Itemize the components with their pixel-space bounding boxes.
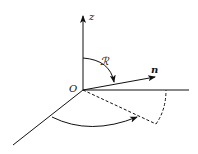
- diagram-canvas: z n O ℛ: [0, 0, 198, 154]
- n-vector: [83, 77, 155, 90]
- azimuth-arc: [52, 117, 137, 127]
- origin-label: O: [69, 83, 77, 94]
- polar-angle-arc: [83, 58, 114, 82]
- z-axis-label: z: [88, 11, 95, 22]
- rotation-label: ℛ: [100, 55, 110, 68]
- n-vector-label: n: [151, 64, 158, 75]
- diagonal-axis: [13, 90, 83, 145]
- projection-dashed-arc: [156, 90, 166, 124]
- projection-dashed-line: [83, 90, 156, 124]
